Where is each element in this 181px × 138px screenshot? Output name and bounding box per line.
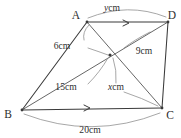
intersection-point <box>108 53 111 56</box>
dim-num-15: 15 <box>55 81 65 92</box>
vertex-dot-a <box>86 21 89 24</box>
vertex-label-d: D <box>168 9 176 21</box>
vertex-label-b: B <box>4 108 12 120</box>
parallel-mark-ad-icon <box>123 20 129 26</box>
dim-unit-9: cm <box>141 45 153 56</box>
dim-unit-y: cm <box>108 2 120 13</box>
dim-unit-20: cm <box>89 124 101 135</box>
dim-unit-x: cm <box>112 81 124 92</box>
diagram-canvas: A D B C ycm 6cm 9cm 15cm xcm 20cm <box>0 0 181 138</box>
leader-pc <box>113 58 116 83</box>
dim-label-bc: 20cm <box>79 124 101 135</box>
parallel-mark-bc-icon <box>84 105 90 111</box>
vertex-label-a: A <box>72 9 81 21</box>
leader-pc-tail <box>124 92 158 106</box>
dim-label-bp: 15cm <box>55 81 77 92</box>
dim-label-ad: ycm <box>103 2 121 13</box>
leader-ap <box>84 25 89 40</box>
vertex-dot-b <box>21 109 24 112</box>
vertex-dot-d <box>167 21 170 24</box>
dim-num-20: 20 <box>79 124 89 135</box>
leader-ad-arc <box>88 10 166 18</box>
diagonal-b-d <box>22 22 168 110</box>
diagonal-a-c <box>87 22 162 108</box>
parallel-marks <box>84 20 129 111</box>
dim-label-pd: 9cm <box>136 45 153 56</box>
edge-a-b <box>22 22 87 110</box>
dim-label-ap: 6cm <box>54 40 71 51</box>
leader-ap-tail <box>88 48 108 55</box>
dim-unit-6: cm <box>59 40 71 51</box>
dim-unit-15: cm <box>65 81 77 92</box>
leader-bp <box>88 58 108 84</box>
edge-d-c <box>162 22 168 108</box>
vertex-dot-c <box>161 107 164 110</box>
dim-label-pc: xcm <box>107 81 125 92</box>
vertex-label-c: C <box>166 109 174 121</box>
geometry-figure: A D B C ycm 6cm 9cm 15cm xcm 20cm <box>0 0 181 138</box>
diagonals <box>22 22 168 110</box>
edge-b-c <box>22 108 162 110</box>
